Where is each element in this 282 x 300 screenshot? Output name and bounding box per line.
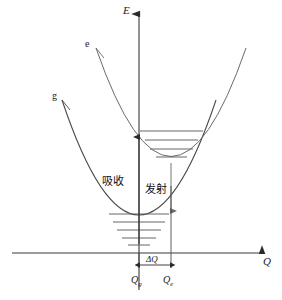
delta-q-label: ΔQ <box>146 254 158 264</box>
x-axis-label: Q <box>263 255 271 267</box>
absorption-label: 吸收 <box>102 172 124 188</box>
y-axis-label: E <box>123 4 130 16</box>
diagram-canvas: E Q e g 吸收 发射 ΔQ Qg Qe <box>0 0 282 300</box>
q-ground-label: Qg <box>131 274 142 288</box>
q-ground-subscript: g <box>138 280 142 288</box>
e-label-leader <box>96 48 104 58</box>
diagram-svg <box>0 0 282 300</box>
ground-curve-label: g <box>52 90 57 101</box>
q-excited-label: Qe <box>163 274 173 288</box>
excited-curve-label: e <box>85 38 89 49</box>
excited-level-lines <box>140 131 203 157</box>
q-excited-subscript: e <box>170 280 173 288</box>
emission-label: 发射 <box>145 180 167 196</box>
